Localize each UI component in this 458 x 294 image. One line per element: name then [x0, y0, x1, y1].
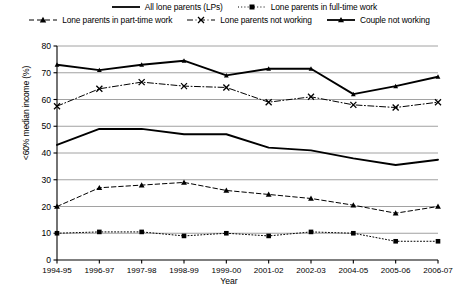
y-tick-label: 80 — [41, 41, 51, 51]
series-line — [57, 129, 438, 165]
y-tick-label: 60 — [41, 95, 51, 105]
series-1 — [57, 129, 438, 165]
series-4 — [54, 79, 441, 110]
data-point-marker — [393, 239, 398, 244]
y-tick-label: 40 — [41, 148, 51, 158]
chart-container: All lone parents (LPs) Lone parents in f… — [0, 0, 458, 294]
data-point-marker — [309, 230, 314, 235]
series-line — [57, 61, 438, 94]
y-tick-label: 50 — [41, 121, 51, 131]
x-tick-label: 2001-02 — [254, 266, 284, 275]
x-tick-label: 2004-05 — [338, 266, 368, 275]
data-point-marker — [351, 231, 356, 236]
y-tick-label: 20 — [41, 202, 51, 212]
x-tick-label: 1996-97 — [84, 266, 114, 275]
x-tick-label: 1994-95 — [42, 266, 72, 275]
data-point-marker — [224, 231, 229, 236]
series-line — [57, 182, 438, 213]
x-tick-label: 2005-06 — [381, 266, 411, 275]
x-tick-label: 2002-03 — [296, 266, 326, 275]
y-tick-label: 0 — [46, 255, 51, 265]
y-tick-label: 10 — [41, 228, 51, 238]
data-point-marker — [181, 180, 187, 185]
y-tick-label: 30 — [41, 175, 51, 185]
data-point-marker — [55, 231, 60, 236]
series-line — [57, 82, 438, 107]
y-tick-label: 70 — [41, 68, 51, 78]
x-tick-label: 1998-99 — [169, 266, 199, 275]
data-point-marker — [266, 234, 271, 239]
data-point-marker — [182, 234, 187, 239]
series-3 — [54, 180, 441, 216]
data-point-marker — [97, 230, 102, 235]
x-tick-label: 1997-98 — [127, 266, 157, 275]
data-point-marker — [436, 239, 441, 244]
data-point-marker — [139, 230, 144, 235]
x-tick-label: 2006-07 — [423, 266, 453, 275]
series-2 — [55, 230, 441, 244]
series-5 — [55, 58, 441, 96]
x-tick-label: 1999-00 — [211, 266, 241, 275]
plot-area: 010203040506070801994-951996-971997-9819… — [0, 0, 458, 294]
